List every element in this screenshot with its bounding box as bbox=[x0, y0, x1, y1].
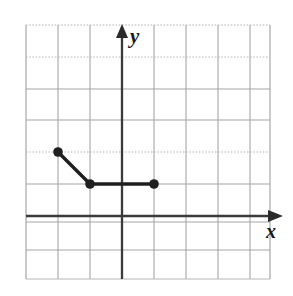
x-axis-label: x bbox=[266, 221, 276, 241]
data-series-piecewise bbox=[53, 147, 159, 189]
graph-figure: y x bbox=[0, 0, 293, 296]
y-axis-arrow-icon bbox=[116, 24, 128, 38]
data-line-segment bbox=[58, 152, 154, 184]
data-point-marker bbox=[53, 147, 63, 157]
y-axis-label: y bbox=[130, 26, 139, 47]
data-point-marker bbox=[149, 179, 159, 189]
coordinate-plane bbox=[0, 0, 293, 296]
data-point-marker bbox=[85, 179, 95, 189]
